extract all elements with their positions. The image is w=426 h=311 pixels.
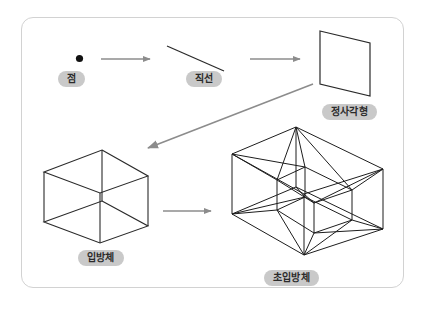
label-cube: 입방체 (78, 250, 124, 266)
label-line: 직선 (186, 71, 222, 87)
figure-card (21, 17, 404, 288)
label-point: 점 (58, 71, 85, 87)
figure-root: 점 직선 정사각형 입방체 초입방체 (0, 0, 426, 311)
label-hypercube: 초입방체 (264, 270, 319, 286)
label-square: 정사각형 (322, 104, 377, 120)
